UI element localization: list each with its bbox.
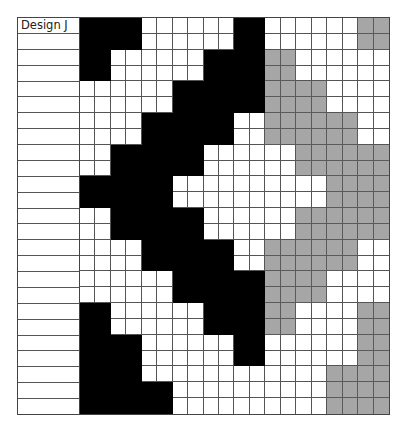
- grid-cell-white: [265, 335, 280, 351]
- grid-cell-white: [204, 192, 219, 208]
- grid-cell-black: [204, 81, 219, 97]
- grid-cell-white: [173, 351, 188, 367]
- grid-cell-gray: [343, 366, 358, 382]
- grid-cell-white: [142, 287, 157, 303]
- grid-cell-gray: [312, 113, 327, 129]
- grid-cell-white: [204, 161, 219, 177]
- grid-cell-white: [327, 303, 342, 319]
- grid-cell-black: [126, 145, 141, 161]
- grid-cell-white: [250, 145, 265, 161]
- grid-cell-gray: [358, 303, 373, 319]
- grid-cell-black: [95, 192, 110, 208]
- grid-cell-black: [219, 319, 234, 335]
- grid-cell-white: [312, 398, 327, 414]
- grid-cell-gray: [296, 161, 311, 177]
- grid-cell-white: [126, 129, 141, 145]
- grid-cell-black: [250, 34, 265, 50]
- grid-cell-white: [219, 176, 234, 192]
- row-label-cell: [18, 336, 79, 352]
- grid-cell-black: [173, 224, 188, 240]
- grid-cell-gray: [327, 176, 342, 192]
- grid-cell-gray: [327, 129, 342, 145]
- grid-cell-white: [111, 113, 126, 129]
- grid-cell-black: [188, 97, 203, 113]
- grid-cell-black: [95, 366, 110, 382]
- grid-cell-black: [157, 208, 172, 224]
- grid-cell-white: [111, 240, 126, 256]
- grid-cell-black: [111, 192, 126, 208]
- grid-cell-black: [142, 240, 157, 256]
- grid-cell-white: [142, 97, 157, 113]
- grid-cell-white: [80, 113, 95, 129]
- grid-cell-white: [265, 192, 280, 208]
- grid-cell-white: [265, 366, 280, 382]
- grid-cell-gray: [265, 66, 280, 82]
- grid-cell-white: [111, 97, 126, 113]
- grid-cell-black: [234, 271, 249, 287]
- grid-cell-gray: [358, 145, 373, 161]
- grid-cell-white: [204, 208, 219, 224]
- grid-cell-white: [157, 303, 172, 319]
- grid-cell-white: [111, 66, 126, 82]
- grid-cell-white: [80, 271, 95, 287]
- grid-cell-white: [142, 335, 157, 351]
- grid-cell-white: [343, 271, 358, 287]
- grid-cell-black: [250, 66, 265, 82]
- row-label-cell: [18, 66, 79, 82]
- grid-cell-gray: [281, 240, 296, 256]
- grid-cell-white: [358, 129, 373, 145]
- grid-cell-white: [343, 18, 358, 34]
- grid-cell-black: [157, 129, 172, 145]
- grid-cell-gray: [265, 287, 280, 303]
- grid-cell-gray: [327, 398, 342, 414]
- design-title-label: Design J: [18, 18, 79, 34]
- grid-cell-white: [312, 50, 327, 66]
- grid-cell-white: [204, 398, 219, 414]
- grid-cell-gray: [265, 113, 280, 129]
- grid-cell-white: [343, 34, 358, 50]
- grid-cell-black: [219, 50, 234, 66]
- grid-cell-white: [95, 287, 110, 303]
- grid-cell-white: [173, 335, 188, 351]
- grid-cell-white: [250, 382, 265, 398]
- grid-cell-white: [374, 50, 389, 66]
- grid-cell-white: [296, 34, 311, 50]
- grid-cell-gray: [281, 50, 296, 66]
- grid-cell-white: [80, 81, 95, 97]
- grid-cell-black: [204, 66, 219, 82]
- grid-cell-white: [157, 81, 172, 97]
- row-label-cell: [18, 193, 79, 209]
- grid-cell-black: [204, 240, 219, 256]
- grid-cell-black: [188, 240, 203, 256]
- grid-cell-gray: [374, 335, 389, 351]
- grid-cell-gray: [296, 145, 311, 161]
- row-label-cell: [18, 97, 79, 113]
- grid-cell-white: [234, 176, 249, 192]
- grid-cell-white: [157, 271, 172, 287]
- grid-cell-white: [327, 34, 342, 50]
- grid-cell-black: [173, 97, 188, 113]
- row-label-cell: [18, 224, 79, 240]
- grid-cell-gray: [358, 319, 373, 335]
- grid-cell-white: [95, 208, 110, 224]
- row-label-cell: [18, 113, 79, 129]
- grid-cell-white: [234, 208, 249, 224]
- grid-cell-black: [173, 256, 188, 272]
- grid-cell-white: [142, 303, 157, 319]
- grid-cell-gray: [281, 113, 296, 129]
- grid-cell-white: [327, 18, 342, 34]
- grid-cell-white: [312, 319, 327, 335]
- grid-cell-gray: [343, 192, 358, 208]
- grid-cell-white: [265, 224, 280, 240]
- grid-cell-black: [250, 97, 265, 113]
- grid-cell-white: [358, 50, 373, 66]
- grid-cell-gray: [374, 161, 389, 177]
- grid-cell-black: [204, 129, 219, 145]
- grid-cell-gray: [281, 271, 296, 287]
- grid-cell-white: [343, 335, 358, 351]
- grid-cell-white: [188, 319, 203, 335]
- grid-cell-black: [80, 366, 95, 382]
- grid-cell-white: [219, 192, 234, 208]
- grid-cell-black: [219, 113, 234, 129]
- grid-cell-black: [142, 129, 157, 145]
